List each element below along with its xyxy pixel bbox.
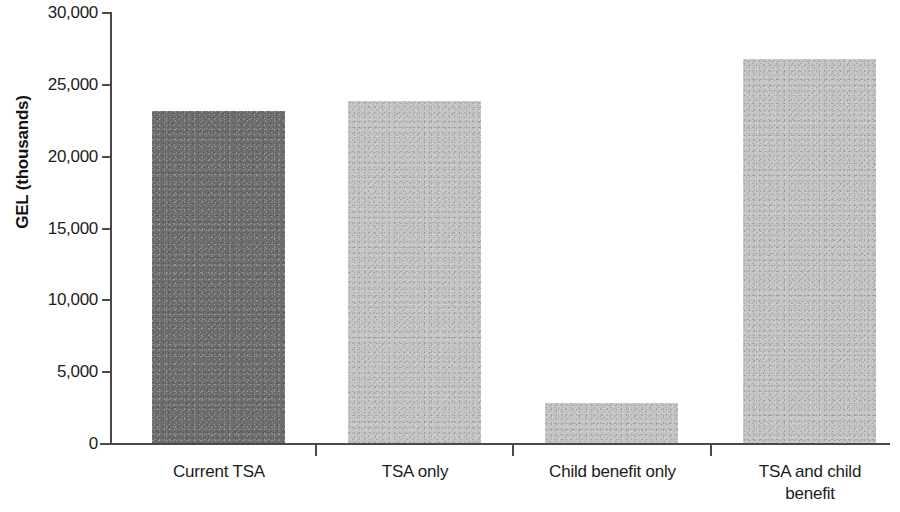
x-category-label-line1: TSA only — [340, 461, 490, 483]
x-category-label-tsa-only: TSA only — [340, 461, 490, 483]
bar-current-tsa — [152, 111, 285, 443]
plot-area — [0, 0, 900, 512]
bar-tsa-only — [348, 101, 481, 443]
bar-tsa-and-child-benefit — [743, 59, 876, 443]
x-category-label-current-tsa: Current TSA — [144, 461, 294, 483]
x-category-label-line1: Child benefit only — [530, 461, 695, 483]
x-category-label-line1: Current TSA — [144, 461, 294, 483]
bar-child-benefit-only — [545, 403, 678, 443]
x-category-label-line1: TSA and child — [735, 461, 885, 483]
x-category-label-child-benefit-only: Child benefit only — [530, 461, 695, 483]
bar-chart: GEL (thousands) 30,000 25,000 20,000 15,… — [0, 0, 900, 512]
x-category-label-line2: benefit — [735, 483, 885, 505]
x-category-label-tsa-and-child-benefit: TSA and child benefit — [735, 461, 885, 505]
